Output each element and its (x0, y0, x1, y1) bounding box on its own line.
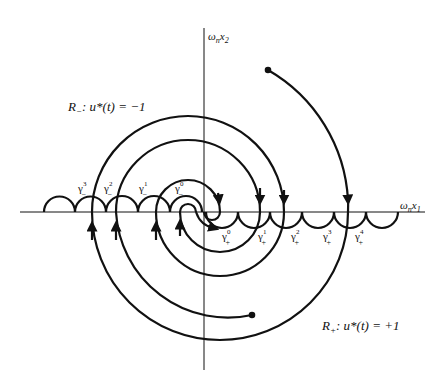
svg-text:γ4+: γ4+ (354, 228, 364, 247)
switching-curve-gamma-plus (206, 212, 398, 228)
svg-text:γ0+: γ0+ (221, 228, 231, 247)
svg-text:γ0−: γ0− (174, 180, 184, 199)
svg-text:γ3−: γ3− (77, 180, 87, 199)
phase-plane-diagram: ωnx2 ωnx1 R−: u*(t) = −1 R+: u*(t) = +1 … (0, 0, 443, 384)
svg-text:γ2+: γ2+ (290, 228, 300, 247)
region-plus-label: R+: u*(t) = +1 (321, 318, 399, 335)
trajectory-inner (116, 140, 260, 318)
svg-text:γ3+: γ3+ (322, 228, 332, 247)
y-axis-label: ωnx2 (208, 30, 229, 45)
svg-text:γ1−: γ1− (138, 180, 148, 199)
svg-text:γ1+: γ1+ (257, 228, 267, 247)
region-minus-label: R−: u*(t) = −1 (67, 99, 145, 116)
svg-text:γ2−: γ2− (103, 180, 113, 199)
